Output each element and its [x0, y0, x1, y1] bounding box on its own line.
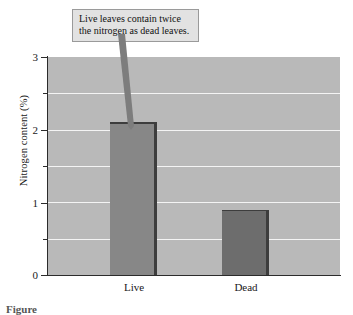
- y-tick-label-3: 3: [12, 52, 38, 63]
- y-tick-2_5: [43, 93, 48, 94]
- callout-line-1: Live leaves contain twice: [79, 13, 192, 25]
- figure-caption: Figure: [6, 303, 37, 315]
- gridline-0_5: [48, 239, 340, 240]
- gridline-2_0: [48, 130, 340, 131]
- x-tick-label-live: Live: [89, 281, 179, 293]
- figure-container: 3 2 1 0 Nitrogen content (%) Live Dead L…: [0, 0, 353, 315]
- bar-dead[interactable]: [222, 210, 269, 275]
- bar-live-side-edge: [154, 122, 157, 275]
- y-tick-1: [41, 203, 48, 204]
- x-axis-line: [47, 275, 341, 276]
- y-axis-title: Nitrogen content (%): [18, 66, 29, 216]
- bar-dead-top-edge: [222, 210, 269, 211]
- bar-live[interactable]: [110, 122, 157, 275]
- x-tick-label-dead: Dead: [201, 281, 291, 293]
- y-tick-0_5: [43, 239, 48, 240]
- gridline-2_5: [48, 93, 340, 94]
- y-tick-3: [41, 57, 48, 58]
- plot-area: [48, 57, 340, 275]
- bar-live-top-edge: [110, 122, 157, 123]
- callout-line-2: the nitrogen as dead leaves.: [79, 25, 192, 37]
- gridline-1_5: [48, 166, 340, 167]
- y-tick-2: [41, 130, 48, 131]
- y-tick-0: [41, 275, 48, 276]
- callout-annotation: Live leaves contain twice the nitrogen a…: [72, 9, 199, 42]
- y-tick-label-0: 0: [12, 270, 38, 281]
- gridline-1_0: [48, 202, 340, 203]
- y-tick-1_5: [43, 166, 48, 167]
- bar-dead-side-edge: [266, 210, 269, 275]
